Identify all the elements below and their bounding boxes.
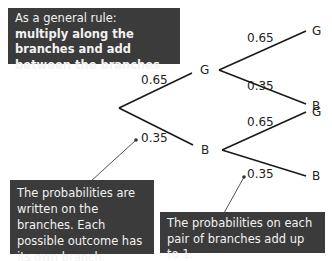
callout-pair: The probabilities on each pair of branch…: [160, 212, 325, 253]
node-B: B: [201, 143, 209, 157]
pointer-pair: [224, 177, 244, 213]
pointer-dot-pair: [242, 175, 246, 179]
node-BG: G: [312, 105, 321, 119]
node-GG: G: [312, 24, 321, 38]
prob-root-B: 0.35: [141, 131, 168, 145]
prob-B-G: 0.65: [247, 115, 274, 129]
prob-G-G: 0.65: [247, 31, 274, 45]
pointer-dot-written: [134, 138, 138, 142]
pointer-written: [90, 140, 136, 182]
prob-G-B: 0.35: [247, 79, 274, 93]
prob-root-G: 0.65: [141, 73, 168, 87]
node-BB: B: [312, 169, 320, 183]
node-G: G: [200, 63, 209, 77]
callout-written: The probabilities are written on the bra…: [10, 180, 154, 254]
prob-B-B: 0.35: [247, 167, 274, 181]
